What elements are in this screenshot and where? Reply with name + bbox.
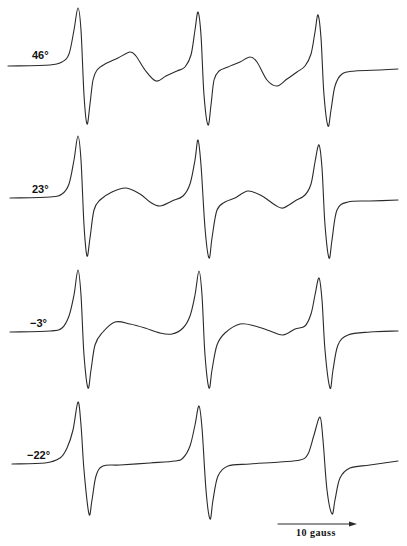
spectrum-trace <box>12 402 398 519</box>
temperature-label-minus3: −3° <box>30 317 47 329</box>
spectrum-trace <box>10 136 398 258</box>
spectrum-traces <box>8 8 398 519</box>
arrow-right-icon <box>349 522 357 527</box>
epr-spectra-plot <box>0 0 407 546</box>
temperature-label-23: 23° <box>32 183 49 195</box>
scale-bar-label: 10 gauss <box>296 527 336 538</box>
spectrum-trace <box>8 8 398 126</box>
temperature-label-minus22: −22° <box>27 449 50 461</box>
temperature-label-46: 46° <box>32 49 49 61</box>
spectrum-trace <box>10 270 398 388</box>
scale-bar <box>278 522 357 527</box>
